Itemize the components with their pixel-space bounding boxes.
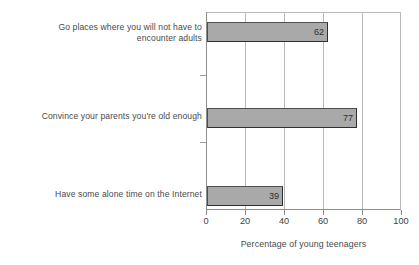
bar-0[interactable]: 62 xyxy=(207,22,328,42)
gridline-80 xyxy=(362,13,363,209)
bar-chart: Go places where you will not have to enc… xyxy=(0,0,419,265)
category-label-0: Go places where you will not have to enc… xyxy=(12,22,202,44)
x-axis-tick-20 xyxy=(245,210,246,215)
bar-value-2: 39 xyxy=(269,192,279,201)
x-axis-tick-60 xyxy=(323,210,324,215)
bar-value-1: 77 xyxy=(343,114,353,123)
category-label-1: Convince your parents you're old enough xyxy=(12,111,202,122)
x-axis-title: Percentage of young teenagers xyxy=(206,239,401,249)
plot-area: 62 77 39 xyxy=(206,12,401,210)
bar-2[interactable]: 39 xyxy=(207,186,283,206)
x-axis-tick-label-100: 100 xyxy=(381,216,419,226)
x-axis-tick-label-80: 80 xyxy=(342,216,382,226)
category-label-2-line-0: Have some alone time on the Internet xyxy=(12,189,202,200)
x-axis-tick-label-20: 20 xyxy=(225,216,265,226)
category-label-0-line-0: Go places where you will not have to xyxy=(12,22,202,33)
x-axis-tick-100 xyxy=(401,210,402,215)
bar-value-0: 62 xyxy=(314,28,324,37)
x-axis-tick-80 xyxy=(362,210,363,215)
x-axis-tick-40 xyxy=(284,210,285,215)
x-axis-tick-label-60: 60 xyxy=(303,216,343,226)
category-label-1-line-0: Convince your parents you're old enough xyxy=(12,111,202,122)
x-axis-tick-0 xyxy=(206,210,207,215)
x-axis-tick-label-0: 0 xyxy=(186,216,226,226)
category-label-0-line-1: encounter adults xyxy=(12,33,202,44)
category-label-2: Have some alone time on the Internet xyxy=(12,189,202,200)
x-axis-tick-label-40: 40 xyxy=(264,216,304,226)
bar-1[interactable]: 77 xyxy=(207,108,357,128)
